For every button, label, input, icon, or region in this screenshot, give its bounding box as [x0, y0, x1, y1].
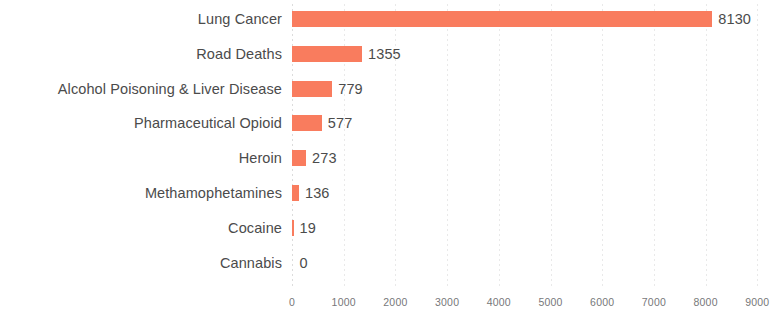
value-label: 273 — [312, 148, 337, 168]
bar — [292, 46, 362, 62]
value-label: 0 — [300, 253, 308, 273]
value-label: 779 — [338, 79, 363, 99]
category-label: Road Deaths — [0, 44, 282, 64]
category-label: Heroin — [0, 148, 282, 168]
bar — [292, 185, 299, 201]
category-label: Lung Cancer — [0, 9, 282, 29]
bar-chart: Lung Cancer8130Road Deaths1355Alcohol Po… — [0, 0, 770, 325]
value-label: 8130 — [718, 9, 751, 29]
x-tick-label: 6000 — [590, 296, 614, 308]
category-label: Alcohol Poisoning & Liver Disease — [0, 79, 282, 99]
value-label: 577 — [328, 113, 353, 133]
x-tick-label: 0 — [289, 296, 295, 308]
x-tick-label: 3000 — [435, 296, 459, 308]
bar-row: Cannabis0 — [0, 253, 770, 279]
bar-row: Road Deaths1355 — [0, 44, 770, 70]
value-label: 19 — [300, 218, 316, 238]
x-tick-label: 1000 — [332, 296, 356, 308]
x-tick-label: 9000 — [745, 296, 769, 308]
bar — [292, 81, 332, 97]
bar-row: Lung Cancer8130 — [0, 9, 770, 35]
bar-row: Alcohol Poisoning & Liver Disease779 — [0, 79, 770, 105]
x-tick-label: 8000 — [694, 296, 718, 308]
bar — [292, 11, 712, 27]
value-label: 1355 — [368, 44, 401, 64]
bar — [292, 220, 294, 236]
x-tick-label: 2000 — [383, 296, 407, 308]
category-label: Pharmaceutical Opioid — [0, 113, 282, 133]
bar-row: Methamophetamines136 — [0, 183, 770, 209]
bar-row: Heroin273 — [0, 148, 770, 174]
category-label: Cannabis — [0, 253, 282, 273]
x-tick-label: 4000 — [487, 296, 511, 308]
category-label: Methamophetamines — [0, 183, 282, 203]
value-label: 136 — [305, 183, 330, 203]
bar-row: Pharmaceutical Opioid577 — [0, 113, 770, 139]
bar-rows: Lung Cancer8130Road Deaths1355Alcohol Po… — [0, 0, 770, 290]
x-tick-label: 5000 — [538, 296, 562, 308]
bar — [292, 150, 306, 166]
bar-row: Cocaine19 — [0, 218, 770, 244]
x-axis: 0100020003000400050006000700080009000 — [0, 296, 770, 316]
category-label: Cocaine — [0, 218, 282, 238]
x-tick-label: 7000 — [642, 296, 666, 308]
bar — [292, 115, 322, 131]
